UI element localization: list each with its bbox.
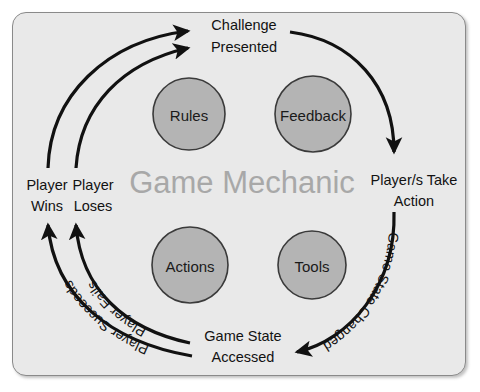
diagram-canvas: Game Mechanic Rules Feedback Actions [0,0,480,392]
stage-player-loses-line1: Player [72,177,113,193]
page-title: Game Mechanic [129,165,355,200]
stage-game-state-accessed-line1: Game State [204,328,281,344]
transition-player-succeeds-text: Player Succeeds [59,278,150,358]
stage-player-loses-line2: Loses [74,198,113,214]
node-rules-label: Rules [170,107,208,124]
node-tools[interactable]: Tools [278,231,346,299]
stage-players-take-action-line2: Action [394,193,434,209]
stage-challenge-presented-line1: Challenge [211,17,276,33]
stage-player-loses: Player Loses [72,177,113,214]
stage-player-wins-line2: Wins [31,198,63,214]
stage-game-state-accessed-line2: Accessed [212,349,275,365]
node-tools-label: Tools [294,258,329,275]
stage-challenge-presented: Challenge Presented [211,17,277,55]
game-mechanic-diagram: Game Mechanic Rules Feedback Actions [0,0,480,392]
stage-player-wins: Player Wins [26,177,67,214]
stage-challenge-presented-line2: Presented [211,39,277,55]
node-feedback[interactable]: Feedback [275,76,351,152]
node-actions[interactable]: Actions [152,227,228,303]
stage-player-wins-line1: Player [26,177,67,193]
stage-players-take-action: Player/s Take Action [371,172,458,209]
stage-players-take-action-line1: Player/s Take [371,172,458,188]
node-feedback-label: Feedback [280,107,346,124]
node-actions-label: Actions [165,258,214,275]
node-rules[interactable]: Rules [153,78,225,150]
transition-player-succeeds: Player Succeeds [59,278,150,358]
stage-game-state-accessed: Game State Accessed [204,328,281,365]
